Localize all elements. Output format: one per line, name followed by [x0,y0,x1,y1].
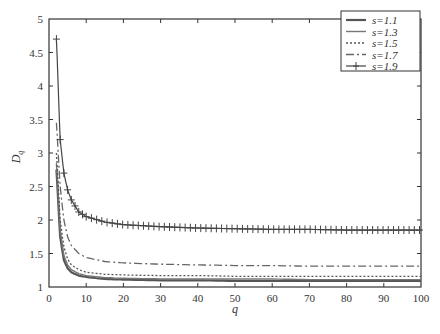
figure-caption [90,325,360,334]
legend-label: s=1.3 [372,26,398,38]
x-tick-label: 40 [192,292,204,304]
x-tick-label: 80 [341,292,353,304]
plus-marker-icon [60,169,67,177]
plus-marker-icon [53,35,60,43]
y-tick-label: 4 [38,80,44,92]
legend: s=1.1s=1.3s=1.5s=1.7s=1.9 [341,11,420,72]
series-line-s-1_5 [56,153,421,276]
y-axis-label: Dq [9,151,25,165]
y-tick-label: 3 [38,147,44,159]
series-line-s-1_3 [56,163,421,280]
x-tick-label: 10 [81,292,93,304]
plus-marker-icon [104,218,111,226]
y-tick-label: 2.5 [29,181,43,193]
plus-marker-icon [98,217,105,225]
chart: 0102030405060708090100 11.522.533.544.55… [0,0,440,334]
legend-label: s=1.9 [372,60,398,72]
y-axis-label-main: D [9,154,23,164]
series-line-s-1_1 [56,170,421,281]
plus-marker-icon [64,186,71,194]
legend-label: s=1.1 [372,14,397,26]
y-tick-label: 1 [38,281,44,293]
y-axis-label-sub: q [16,151,25,155]
y-tick-label: 1.5 [29,248,43,260]
x-tick-label: 0 [46,292,52,304]
x-tick-label: 90 [378,292,390,304]
x-tick-label: 30 [155,292,167,304]
x-tick-label: 70 [304,292,316,304]
y-tick-label: 2 [38,214,44,226]
x-tick-label: 20 [118,292,130,304]
y-tick-label: 5 [38,13,44,25]
plus-marker-icon [416,226,423,234]
x-tick-label: 100 [413,292,430,304]
legend-label: s=1.7 [372,49,398,61]
x-axis-label: q [232,302,238,316]
y-tick-label: 4.5 [29,47,43,59]
series-line-s-1_7 [56,123,421,266]
series-layer [53,35,423,281]
plus-marker-icon [109,219,116,227]
legend-label: s=1.5 [372,37,398,49]
plus-marker-icon [93,216,100,224]
svg-text:Dq: Dq [9,151,25,165]
x-tick-label: 60 [267,292,279,304]
plus-marker-icon [88,214,95,222]
plus-marker-icon [114,220,121,228]
y-tick-label: 3.5 [29,114,43,126]
